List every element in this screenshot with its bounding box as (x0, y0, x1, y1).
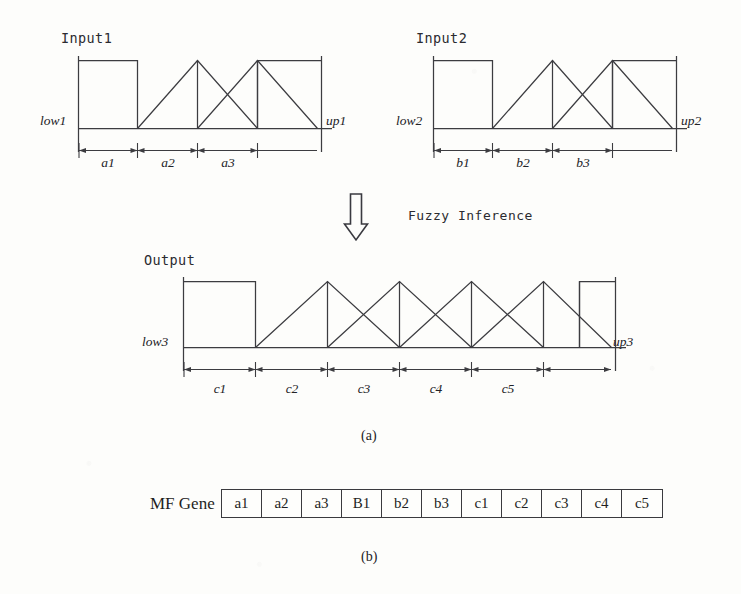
mf-gene-cell[interactable]: a3 (302, 490, 342, 517)
output-segment-label-c5: c5 (472, 381, 544, 397)
mf-gene-cell[interactable]: a1 (222, 490, 262, 517)
mf-gene-cell[interactable]: c1 (462, 490, 502, 517)
output-segment-label-c2: c2 (256, 381, 328, 397)
input1-title: Input1 (61, 30, 112, 46)
mf-gene-table: a1 a2 a3 B1 b2 b3 c1 c2 c3 c4 c5 (221, 489, 663, 518)
fuzzy-inference-label: Fuzzy Inference (408, 208, 533, 223)
output-panel: Output low3 up3 (120, 245, 680, 405)
fuzzy-inference-block: Fuzzy Inference (300, 190, 560, 250)
mf-gene-cell[interactable]: a2 (262, 490, 302, 517)
output-segment-label-c3: c3 (328, 381, 400, 397)
mf-gene-cell[interactable]: b3 (422, 490, 462, 517)
input1-segment-label-a1: a1 (78, 155, 138, 171)
mf-gene-title: MF Gene (150, 494, 215, 514)
output-membership-plot (165, 273, 665, 398)
input2-segment-label-b2: b2 (493, 155, 553, 171)
mf-gene-cell[interactable]: c5 (622, 490, 662, 517)
input1-segment-label-a3: a3 (198, 155, 258, 171)
input1-segment-label-a2: a2 (138, 155, 198, 171)
input2-title: Input2 (416, 30, 467, 46)
input1-panel: Input1 low1 up1 (0, 0, 360, 185)
output-title: Output (144, 252, 195, 268)
mf-gene-cell[interactable]: c3 (542, 490, 582, 517)
input2-segment-label-b3: b3 (553, 155, 613, 171)
panel-b-caption: (b) (361, 549, 377, 565)
down-arrow-hollow-icon (340, 192, 374, 244)
output-segment-label-c4: c4 (400, 381, 472, 397)
figure-page: Input1 low1 up1 (0, 0, 741, 594)
mf-gene-cell[interactable]: b2 (382, 490, 422, 517)
mf-gene-cell[interactable]: c4 (582, 490, 622, 517)
mf-gene-block: MF Gene a1 a2 a3 B1 b2 b3 c1 c2 c3 c4 c5 (0, 485, 741, 535)
mf-gene-cell[interactable]: c2 (502, 490, 542, 517)
input2-segment-label-b1: b1 (433, 155, 493, 171)
panel-a-caption: (a) (361, 428, 377, 444)
output-segment-label-c1: c1 (184, 381, 256, 397)
input2-panel: Input2 low2 up2 b1 b2 b3 (380, 0, 741, 185)
mf-gene-cell[interactable]: B1 (342, 490, 382, 517)
